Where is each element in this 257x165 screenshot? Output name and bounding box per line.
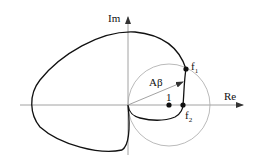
loop-gain-curve bbox=[32, 32, 186, 151]
nyquist-diagram: Im Re Aβ 1 f1 f2 bbox=[0, 0, 257, 165]
f2-label: f2 bbox=[185, 109, 193, 124]
point-f2 bbox=[180, 102, 185, 107]
vector-label: Aβ bbox=[149, 76, 163, 88]
point-unit bbox=[166, 102, 171, 107]
f2-sub: 2 bbox=[189, 116, 193, 124]
unit-point-label: 1 bbox=[166, 91, 172, 103]
im-axis-label: Im bbox=[108, 12, 121, 24]
point-f1 bbox=[183, 66, 188, 71]
f1-label: f1 bbox=[191, 60, 199, 75]
re-axis-label: Re bbox=[224, 90, 236, 102]
f1-sub: 1 bbox=[195, 67, 199, 75]
